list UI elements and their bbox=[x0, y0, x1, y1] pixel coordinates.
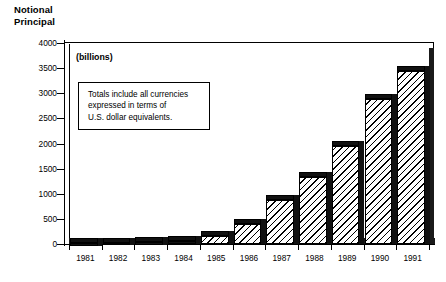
x-tick-mark bbox=[265, 244, 266, 250]
y-tick-mark bbox=[57, 118, 64, 119]
x-tick-label: 1981 bbox=[76, 254, 94, 263]
bar-front-face bbox=[201, 236, 229, 244]
bar bbox=[103, 238, 131, 245]
y-tick-mark bbox=[57, 244, 64, 245]
x-tick-mark bbox=[102, 244, 103, 250]
y-tick-mark bbox=[57, 219, 64, 220]
x-tick-label: 1983 bbox=[142, 254, 160, 263]
x-tick-label: 1988 bbox=[305, 254, 323, 263]
y-tick-label: 4000 bbox=[17, 39, 57, 47]
y-tick-mark bbox=[57, 68, 64, 69]
x-tick-mark bbox=[69, 244, 70, 250]
bar-front-face bbox=[397, 71, 425, 244]
y-tick-mark bbox=[57, 169, 64, 170]
bar-front-face bbox=[332, 146, 360, 244]
y-axis-title: NotionalPrincipal bbox=[14, 4, 55, 27]
x-tick-label: 1982 bbox=[109, 254, 127, 263]
bar bbox=[332, 141, 360, 244]
y-tick-mark bbox=[57, 144, 64, 145]
x-tick-label: 1990 bbox=[371, 254, 389, 263]
annotation-note-box: Totals include all currencies expressed … bbox=[78, 82, 210, 130]
x-tick-label: 1985 bbox=[207, 254, 225, 263]
bar-front-face bbox=[103, 243, 131, 245]
bar bbox=[168, 236, 196, 244]
x-tick-label: 1987 bbox=[272, 254, 290, 263]
x-tick-label: 1984 bbox=[174, 254, 192, 263]
bar-front-face bbox=[70, 243, 98, 245]
y-tick-mark bbox=[57, 93, 64, 94]
bar bbox=[201, 231, 229, 244]
bar-front-face bbox=[299, 177, 327, 244]
y-axis-outer-line bbox=[64, 40, 65, 246]
chart-figure: NotionalPrincipal 0500100015002000250030… bbox=[0, 0, 446, 282]
x-tick-mark bbox=[429, 244, 430, 250]
y-tick-label: 2500 bbox=[17, 114, 57, 122]
y-axis-title-line1: Notional bbox=[14, 4, 53, 15]
bar bbox=[266, 195, 294, 244]
bar-front-face bbox=[168, 241, 196, 244]
y-tick-mark bbox=[57, 194, 64, 195]
x-tick-mark bbox=[364, 244, 365, 250]
x-tick-label: 1989 bbox=[338, 254, 356, 263]
x-tick-mark bbox=[396, 244, 397, 250]
y-axis-inner-line bbox=[69, 44, 70, 245]
x-tick-label: 1991 bbox=[403, 254, 421, 263]
y-tick-label: 1500 bbox=[17, 165, 57, 173]
y-tick-label: 500 bbox=[17, 215, 57, 223]
bar-front-face bbox=[234, 224, 262, 244]
x-tick-mark bbox=[233, 244, 234, 250]
x-tick-mark bbox=[134, 244, 135, 250]
units-label: (billions) bbox=[76, 52, 113, 62]
y-tick-label: 2000 bbox=[17, 140, 57, 148]
bar-front-face bbox=[365, 99, 393, 244]
bar bbox=[299, 172, 327, 244]
bar bbox=[70, 238, 98, 245]
bar-front-face bbox=[135, 242, 163, 244]
y-tick-mark bbox=[57, 43, 64, 44]
y-tick-label: 3500 bbox=[17, 64, 57, 72]
bar bbox=[234, 219, 262, 244]
x-tick-label: 1986 bbox=[240, 254, 258, 263]
bar-side-face bbox=[425, 66, 430, 244]
bar bbox=[397, 66, 425, 244]
bar bbox=[135, 237, 163, 244]
x-tick-mark bbox=[167, 244, 168, 250]
y-tick-label: 3000 bbox=[17, 89, 57, 97]
bar-front-face bbox=[266, 200, 294, 244]
y-axis-title-line2: Principal bbox=[14, 16, 55, 27]
y-tick-label: 1000 bbox=[17, 190, 57, 198]
x-tick-mark bbox=[331, 244, 332, 250]
x-tick-mark bbox=[298, 244, 299, 250]
x-tick-mark bbox=[200, 244, 201, 250]
bar bbox=[365, 94, 393, 244]
y-tick-label: 0 bbox=[17, 240, 57, 248]
